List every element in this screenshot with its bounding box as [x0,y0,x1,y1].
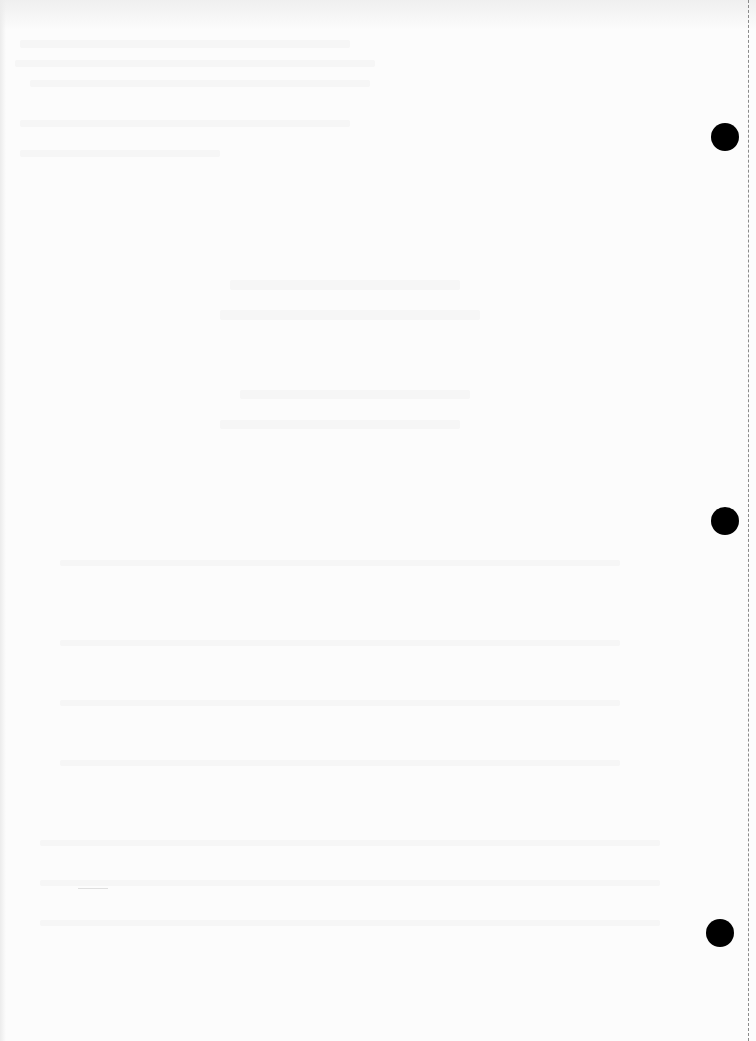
bleed-through-band [30,80,370,87]
bleed-through-band [240,390,470,399]
punch-hole-bottom [706,919,734,947]
bleed-through-band [40,920,660,926]
bleed-through-band [220,420,460,429]
bleed-through-band [60,560,620,566]
bleed-through-band [220,310,480,320]
bleed-through-band [60,700,620,706]
punch-hole-middle [711,507,739,535]
bleed-through-band [60,760,620,766]
bleed-through-band [230,280,460,290]
bleed-through-band [20,150,220,157]
scan-left-shadow [0,0,6,1041]
scanned-page [0,0,756,1041]
punch-hole-top [711,123,739,151]
bleed-through-band [40,840,660,846]
bleed-through-band [20,40,350,48]
perforation-line [748,0,749,1041]
bleed-through-band [20,120,350,127]
scan-edge-tint [0,0,756,30]
bleed-through-band [15,60,375,67]
bleed-through-band [40,880,660,886]
faint-rule [78,888,108,889]
bleed-through-band [60,640,620,646]
